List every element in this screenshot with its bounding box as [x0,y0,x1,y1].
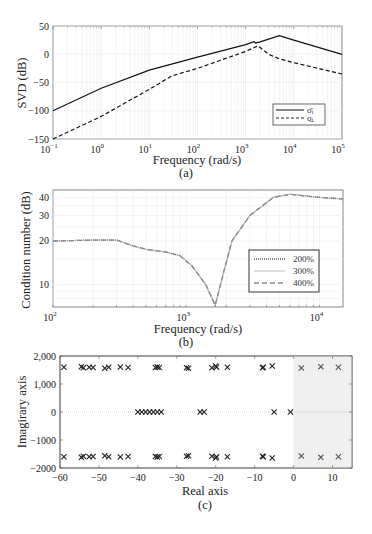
y-tick-a: −50 [33,77,49,88]
x-tick-a: 101 [139,142,153,155]
legend-label-200: 200% [293,254,315,264]
legend-label-300: 300% [293,266,315,276]
y-tick-b: 40 [39,192,49,203]
x-axis-label-b: Frequency (rad/s) [154,322,243,336]
x-tick-c: −60 [52,472,68,483]
y-axis-label-b: Condition number (dB) [19,191,33,308]
y-axis-label-c: Imagirary axis [15,376,29,449]
x-tick-c: 0 [291,472,296,483]
x-tick-b: 102 [43,310,57,323]
y-tick-c: −2000 [30,463,56,474]
y-tick-a: −100 [28,105,49,116]
x-tick-c: −50 [91,472,107,483]
x-tick-c: −40 [130,472,146,483]
figure: 10−1100101102103104105500−50−100−150 σ̄ᵢ… [0,0,372,534]
y-tick-c: −1000 [30,435,56,446]
x-tick-a: 100 [90,142,104,155]
y-tick-a: −150 [28,134,49,145]
x-tick-b: 104 [310,310,324,323]
legend-a: σ̄ᵢ σ̲ᵢ [273,104,325,125]
y-tick-c: 1,000 [34,379,57,390]
y-tick-c: 2,000 [34,351,57,362]
y-tick-a: 50 [39,21,49,32]
x-tick-c: −10 [247,472,263,483]
panel-a-svd-plot: 10−1100101102103104105500−50−100−150 σ̄ᵢ… [15,21,345,181]
y-tick-b: 30 [39,210,49,221]
panel-c-pole-map: −60−50−40−30−20−100102,0001,0000−1000−20… [15,351,352,513]
y-tick-a: 0 [44,49,49,60]
subtitle-b: (b) [179,335,194,349]
x-tick-a: 104 [283,142,297,155]
x-tick-c: 10 [328,472,338,483]
x-tick-c: −20 [208,472,224,483]
y-axis-label-a: SVD (dB) [15,57,29,108]
legend-label-400: 400% [293,278,315,288]
x-tick-c: −30 [169,472,185,483]
x-tick-a: 105 [331,142,345,155]
panel-b-condition-number-plot: 10210310440302010 200% 300% 400% Frequen… [19,190,343,349]
subtitle-a: (a) [179,166,193,180]
subtitle-c: (c) [198,498,212,512]
y-tick-b: 10 [39,279,49,290]
y-tick-b: 20 [39,235,49,246]
x-axis-label-a: Frequency (rad/s) [153,153,242,167]
x-axis-label-c: Real axis [182,484,228,498]
legend-b: 200% 300% 400% [249,250,319,292]
y-tick-c: 0 [51,407,56,418]
